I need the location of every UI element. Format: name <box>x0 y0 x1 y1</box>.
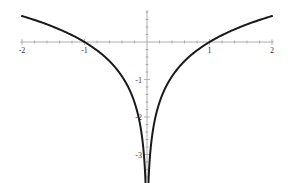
x-tick-label: -1 <box>81 46 88 55</box>
chart-plot-area: -2-112-1-2-3 <box>0 0 291 183</box>
curve-left-branch <box>22 16 146 183</box>
x-tick-label: -2 <box>19 46 26 55</box>
curve-right-branch <box>148 16 272 183</box>
y-tick-label: -1 <box>135 76 142 85</box>
y-tick-label: -3 <box>135 151 142 160</box>
x-tick-label: 1 <box>208 46 212 55</box>
tick-labels: -2-112-1-2-3 <box>19 46 274 160</box>
x-tick-label: 2 <box>270 46 274 55</box>
